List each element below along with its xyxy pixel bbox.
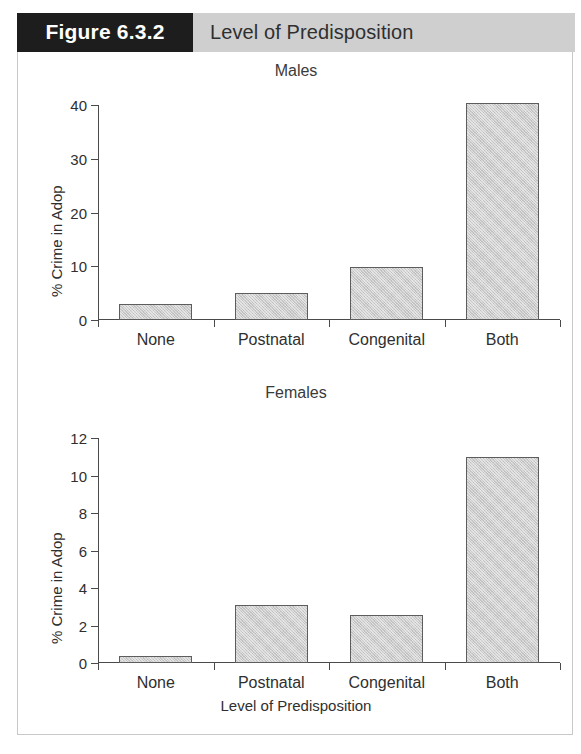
figure-number-label: Figure 6.3.2 xyxy=(45,20,164,44)
y-tick-label: 4 xyxy=(79,580,87,597)
y-tick-label: 40 xyxy=(70,97,87,114)
x-category-label: Postnatal xyxy=(238,674,305,692)
x-tick xyxy=(329,320,330,327)
y-tick-label: 8 xyxy=(79,505,87,522)
plot-area-males: 010203040NonePostnatalCongenitalBoth xyxy=(98,105,560,320)
y-tick-label: 0 xyxy=(79,655,87,672)
bar xyxy=(235,293,308,320)
x-category-label: Congenital xyxy=(349,674,426,692)
panel-title-females: Females xyxy=(18,384,574,402)
y-tick-label: 10 xyxy=(70,467,87,484)
figure-header: Figure 6.3.2 Level of Predisposition xyxy=(17,13,575,52)
y-tick-females-2 xyxy=(91,626,98,627)
x-category-label: None xyxy=(137,674,175,692)
y-tick-label: 30 xyxy=(70,150,87,167)
panel-title-males: Males xyxy=(18,62,574,80)
chart-panel-females: Females % Crime in Adop 024681012NonePos… xyxy=(18,382,574,734)
y-tick-females-12 xyxy=(91,438,98,439)
y-tick-label: 20 xyxy=(70,204,87,221)
y-tick-females-0 xyxy=(91,663,98,664)
y-axis-line-females xyxy=(98,438,99,663)
plot-area-females: 024681012NonePostnatalCongenitalBoth xyxy=(98,438,560,663)
bar xyxy=(466,103,539,320)
x-tick xyxy=(445,663,446,670)
x-tick xyxy=(214,320,215,327)
x-category-label: Both xyxy=(486,331,519,349)
bar xyxy=(119,304,192,320)
x-category-label: Postnatal xyxy=(238,331,305,349)
x-axis-end-cap xyxy=(560,320,561,327)
bar xyxy=(235,605,308,663)
y-tick-label: 6 xyxy=(79,542,87,559)
y-tick-females-10 xyxy=(91,476,98,477)
bar xyxy=(466,457,539,663)
y-axis-label-males: % Crime in Adop xyxy=(48,185,65,297)
x-category-label: None xyxy=(137,331,175,349)
bar xyxy=(119,656,192,664)
y-tick-label: 0 xyxy=(79,312,87,329)
figure-title-label: Level of Predisposition xyxy=(193,13,575,52)
figure-number-block: Figure 6.3.2 xyxy=(17,13,193,52)
bar xyxy=(350,267,423,320)
y-tick-females-6 xyxy=(91,551,98,552)
y-tick-label: 2 xyxy=(79,617,87,634)
y-axis-line-males xyxy=(98,105,99,320)
x-tick xyxy=(214,663,215,670)
y-tick-males-0 xyxy=(91,320,98,321)
figure-card: Males % Crime in Adop 010203040NonePostn… xyxy=(17,52,573,735)
x-category-label: Congenital xyxy=(349,331,426,349)
y-tick-males-30 xyxy=(91,159,98,160)
y-tick-females-8 xyxy=(91,513,98,514)
x-axis-start-cap xyxy=(98,320,99,327)
y-axis-label-females: % Crime in Adop xyxy=(48,532,65,644)
x-axis-start-cap xyxy=(98,663,99,670)
x-category-label: Both xyxy=(486,674,519,692)
y-tick-label: 10 xyxy=(70,258,87,275)
y-tick-males-10 xyxy=(91,266,98,267)
y-tick-males-20 xyxy=(91,213,98,214)
x-tick xyxy=(329,663,330,670)
x-tick xyxy=(445,320,446,327)
x-axis-caption: Level of Predisposition xyxy=(18,697,574,714)
chart-panel-males: Males % Crime in Adop 010203040NonePostn… xyxy=(18,52,574,382)
x-axis-end-cap xyxy=(560,663,561,670)
y-tick-males-40 xyxy=(91,105,98,106)
y-tick-label: 12 xyxy=(70,430,87,447)
bar xyxy=(350,615,423,663)
y-tick-females-4 xyxy=(91,588,98,589)
